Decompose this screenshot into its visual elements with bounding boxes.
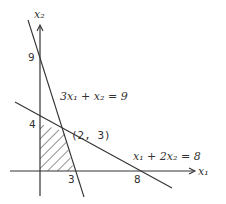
lp-diagram: x₂ x₁ 9 4 3 8 3x₁ + x₂ = 9 x₁ + 2x₂ = 8 … [0,0,226,204]
constraint-line-2 [15,102,172,188]
tick-y-9: 9 [28,52,35,63]
x1-axis-label: x₁ [198,166,209,177]
tick-y-4: 4 [29,119,36,130]
tick-x-8: 8 [134,174,141,185]
equation-label-1: 3x₁ + x₂ = 9 [60,91,128,102]
x2-axis-label: x₂ [34,9,45,20]
tick-x-3: 3 [68,174,75,185]
equation-label-2: x₁ + 2x₂ = 8 [133,151,201,162]
intersection-label: (2, 3) [71,130,111,141]
